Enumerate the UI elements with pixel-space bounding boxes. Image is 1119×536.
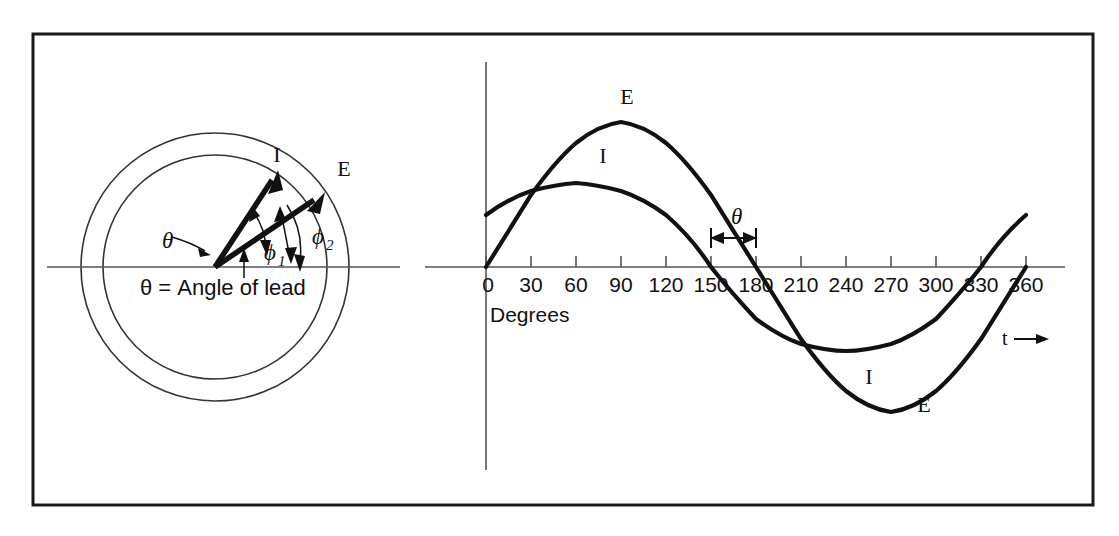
curve-label-I-trough: I xyxy=(865,364,872,389)
tick-label-30: 30 xyxy=(519,273,542,296)
tick-label-90: 90 xyxy=(609,273,632,296)
phi2-label: ϕ 2 xyxy=(312,224,334,253)
theta-symbol-chart: θ xyxy=(731,204,742,229)
figure-border xyxy=(33,34,1093,505)
figure-canvas: I E θ ϕ 1 ϕ 2 θ = Angle of lead xyxy=(0,0,1119,536)
theta-indicator xyxy=(172,237,211,257)
curve-label-E-trough: E xyxy=(917,392,930,417)
t-label: t xyxy=(1002,327,1008,349)
time-axis-arrow-label: t xyxy=(1002,327,1049,349)
waveform-chart: θ E I I E 0 30 60 90 120 150 180 210 240… xyxy=(425,62,1065,470)
figure-root: I E θ ϕ 1 ϕ 2 θ = Angle of lead xyxy=(0,0,1119,536)
tick-label-270: 270 xyxy=(873,273,908,296)
tick-label-210: 210 xyxy=(783,273,818,296)
phasor-label-I: I xyxy=(273,142,280,167)
angle-of-lead-caption: θ = Angle of lead xyxy=(140,275,306,300)
phi1-label: ϕ 1 xyxy=(264,240,286,269)
phasor-diagram: I E θ ϕ 1 ϕ 2 θ = Angle of lead xyxy=(47,133,400,401)
tick-label-150: 150 xyxy=(693,273,728,296)
curve-label-E-peak: E xyxy=(620,84,633,109)
phi2-subscript: 2 xyxy=(326,237,334,253)
tick-label-60: 60 xyxy=(564,273,587,296)
phi1-glyph: ϕ xyxy=(264,240,276,265)
phi1-subscript: 1 xyxy=(278,253,286,269)
phi2-glyph: ϕ xyxy=(312,224,324,249)
x-axis-caption: Degrees xyxy=(490,303,569,326)
tick-label-240: 240 xyxy=(828,273,863,296)
tick-label-120: 120 xyxy=(648,273,683,296)
tick-label-300: 300 xyxy=(918,273,953,296)
tick-label-330: 330 xyxy=(963,273,998,296)
tick-label-360: 360 xyxy=(1008,273,1043,296)
theta-symbol-phasor: θ xyxy=(162,228,173,253)
tick-label-180: 180 xyxy=(738,273,773,296)
tick-label-0: 0 xyxy=(482,273,494,296)
curve-label-I-peak: I xyxy=(599,143,606,168)
phasor-label-E: E xyxy=(337,156,350,181)
